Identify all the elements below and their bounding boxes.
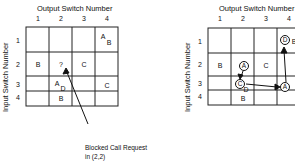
right-col-number: 4	[284, 15, 294, 22]
cell-r4c2: B	[239, 95, 247, 103]
left-row-number: 3	[14, 81, 22, 88]
cell-r2c3: C	[262, 62, 270, 70]
right-col-number: 3	[261, 15, 271, 22]
left-row-number: 4	[14, 94, 22, 101]
left-output-switch-title: Output Switch Number	[37, 4, 112, 13]
left-col-number: 1	[33, 15, 43, 22]
circled-a-moved: A	[239, 61, 249, 71]
grid-lines	[0, 0, 295, 168]
cell-r1c4-b: B	[290, 38, 295, 46]
left-input-switch-label: Input Switch Number	[1, 42, 10, 112]
right-input-switch-label: Input Switch Number	[183, 42, 192, 112]
cell-r1c4-b: B	[105, 39, 113, 47]
right-col-number: 2	[238, 15, 248, 22]
cell-r3c2-d: D	[242, 86, 250, 94]
cell-r2c1: B	[34, 61, 42, 69]
right-row-number: 1	[196, 38, 204, 45]
left-col-number: 2	[56, 15, 66, 22]
right-row-number: 4	[196, 93, 204, 100]
cell-r4c2: B	[57, 95, 65, 103]
blocked-call-annotation: Blocked Call Request	[85, 143, 147, 152]
left-col-number: 3	[79, 15, 89, 22]
right-row-number: 3	[196, 80, 204, 87]
right-row-number: 2	[196, 61, 204, 68]
circled-a: A	[280, 82, 290, 92]
left-row-number: 1	[14, 37, 22, 44]
circled-d: D	[280, 35, 290, 45]
cell-r3c4: C	[103, 82, 111, 90]
left-row-number: 2	[14, 61, 22, 68]
cell-r3c2-d: D	[59, 85, 67, 93]
cell-r2c1: B	[216, 62, 224, 70]
right-output-switch-title: Output Switch Number	[219, 4, 294, 13]
left-col-number: 4	[102, 15, 112, 22]
cell-r2c3: C	[80, 61, 88, 69]
right-col-number: 1	[215, 15, 225, 22]
blocked-call-location: in (2,2)	[85, 152, 105, 161]
cell-r2c2-blocked: ?	[57, 61, 65, 69]
